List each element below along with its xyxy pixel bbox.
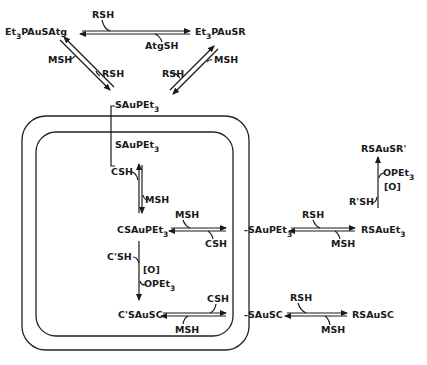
reagent-top-atgsh: AtgSH	[145, 40, 179, 51]
reagent-mid-msh: MSH	[175, 209, 199, 220]
bottom-inner-equilibrium-arrows	[161, 304, 226, 324]
species-sausc-outer: -SAuSC	[244, 309, 283, 320]
reagent-r-o: [O]	[384, 181, 401, 192]
species-saupet3-inner: SAuPEt3	[115, 139, 159, 154]
species-et3pausr: Et3PAuSR	[195, 26, 246, 41]
reagent-rprime-sh: R'SH	[349, 196, 374, 207]
reagent-ox-opet3: OPEt3	[144, 278, 175, 293]
right-mid-equilibrium-arrows	[289, 220, 355, 239]
species-csaupet3: CSAuPEt3	[117, 224, 168, 239]
species-et3pausatg: Et3PAuSAtg	[5, 26, 67, 41]
reagent-right-rsh: RSH	[162, 68, 184, 79]
species-csausc: C'SAuSC	[118, 309, 163, 320]
bottom-right-equilibrium-arrows	[285, 303, 347, 325]
reagent-mid-csh: CSH	[205, 238, 227, 249]
reagent-ox-o: [O]	[143, 264, 160, 275]
mid-equilibrium-arrows	[169, 220, 226, 239]
reagent-left-rsh: RSH	[102, 68, 124, 79]
reagent-right-msh: MSH	[214, 54, 238, 65]
reagent-inner-msh: MSH	[145, 194, 169, 205]
reagent-bot-msh: MSH	[175, 324, 199, 335]
reagent-right-mid-msh: MSH	[331, 238, 355, 249]
species-rsausr-prime: RSAuSR'	[361, 143, 406, 154]
species-rsausc: RSAuSC	[352, 309, 394, 320]
top-equilibrium-arrows	[80, 20, 190, 42]
reagent-right-mid-rsh: RSH	[302, 209, 324, 220]
reagent-bot-csh: CSH	[207, 293, 229, 304]
species-rsauet3: RSAuEt3	[361, 224, 406, 239]
inner-vertical-arrows	[131, 164, 148, 213]
reagent-rb-rsh: RSH	[290, 292, 312, 303]
auranofin-metabolism-diagram: Et3PAuSAtg Et3PAuSR SAuPEt3 SAuPEt3 CSAu…	[0, 0, 427, 365]
species-saupet3-top: SAuPEt3	[115, 99, 159, 114]
membrane-transport-connector	[111, 106, 115, 166]
reagent-ox-cprime-sh: C'SH	[107, 251, 132, 262]
reagent-top-rsh: RSH	[92, 9, 114, 20]
reagent-left-msh: MSH	[48, 54, 72, 65]
reagent-rb-msh: MSH	[321, 324, 345, 335]
reagent-r-opet3: OPEt3	[383, 167, 414, 182]
reagent-inner-csh: CSH	[111, 166, 133, 177]
species-saupet3-outer: -SAuPEt3	[244, 224, 292, 239]
